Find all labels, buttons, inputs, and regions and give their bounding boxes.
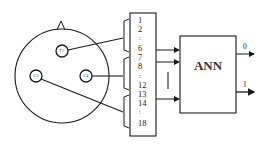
ann-box: [180, 36, 236, 113]
electrode-label-c3: C3: [30, 73, 42, 78]
output-label-0: 0: [243, 42, 247, 51]
ann-label: ANN: [180, 58, 236, 74]
bracket-group-3: [124, 95, 129, 128]
bracket-group-1: [124, 19, 129, 52]
channel-label: 2: [138, 25, 142, 34]
electrode-label-c4: C4: [80, 73, 92, 78]
head-outline: [15, 21, 109, 123]
electrode-label-f7: F7: [56, 48, 68, 53]
output-label-1: 1: [243, 80, 247, 89]
channel-label: 14: [138, 99, 147, 108]
channel-ellipsis: :: [139, 34, 141, 43]
bracket-group-2: [124, 57, 129, 90]
channel-ellipsis: :: [139, 108, 141, 117]
channel-label: 8: [138, 62, 142, 71]
link-c3: [41, 79, 123, 112]
link-f7: [68, 38, 123, 50]
channel-label: 18: [138, 119, 147, 128]
